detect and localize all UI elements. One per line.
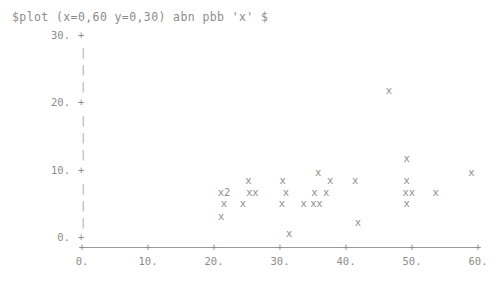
data-point: x <box>311 187 317 198</box>
y-axis-dash: | <box>80 115 86 126</box>
x-axis-tick-mark: + <box>145 242 151 253</box>
data-point: x <box>468 167 474 178</box>
x-axis-tick-label: 40. <box>337 255 356 267</box>
data-point: x <box>355 217 361 228</box>
y-axis-tick-mark: + <box>78 97 84 108</box>
x-axis-tick-mark: + <box>277 242 283 253</box>
data-point: x <box>352 175 358 186</box>
scatter-plot-canvas: 30.+20.+10.+0.+||||||||| +0.+10.+20.+30.… <box>0 0 500 284</box>
y-axis-dash: | <box>80 81 86 92</box>
x-axis-tick-label: 0. <box>76 255 89 267</box>
data-point: x <box>327 175 333 186</box>
x-axis-tick-label: 10. <box>139 255 158 267</box>
x-axis-tick-mark: + <box>79 242 85 253</box>
data-point: x <box>323 187 329 198</box>
y-axis-tick-label: 0. <box>57 231 70 243</box>
y-axis-dash: | <box>80 64 86 75</box>
data-point: x <box>386 85 392 96</box>
data-point: x <box>301 198 307 209</box>
y-axis-tick-mark: + <box>78 30 84 41</box>
y-axis-dash: | <box>80 47 86 58</box>
data-point-overplot: xx <box>403 187 415 198</box>
x-axis-tick-label: 60. <box>469 255 488 267</box>
y-axis-dash: | <box>80 183 86 194</box>
y-axis-dash: | <box>80 149 86 160</box>
data-point-overplot: xx <box>246 187 258 198</box>
data-point: x <box>404 198 410 209</box>
data-point-overplot: x2 <box>218 187 230 198</box>
x-axis-tick-label: 30. <box>271 255 290 267</box>
data-point: x <box>218 211 224 222</box>
x-axis-tick-mark: + <box>475 242 481 253</box>
data-point: x <box>279 198 285 209</box>
y-axis-tick-mark: + <box>78 165 84 176</box>
x-axis-tick-mark: + <box>343 242 349 253</box>
data-point: x <box>279 175 285 186</box>
y-axis-dash: | <box>80 200 86 211</box>
x-axis-tick-mark: + <box>211 242 217 253</box>
y-axis-tick-label: 10. <box>51 164 70 176</box>
plot-output-screen: $plot (x=0,60 y=0,30) abn pbb 'x' $ 30.+… <box>0 0 500 284</box>
data-point: x <box>404 153 410 164</box>
data-point: x <box>221 198 227 209</box>
data-point: x <box>404 175 410 186</box>
x-axis-tick-label: 20. <box>205 255 224 267</box>
data-point: x <box>245 175 251 186</box>
data-point: x <box>315 167 321 178</box>
y-axis-dash: | <box>80 217 86 228</box>
data-point: x <box>240 198 246 209</box>
x-axis-tick-label: 50. <box>403 255 422 267</box>
x-axis-tick-mark: + <box>409 242 415 253</box>
data-point: x <box>283 187 289 198</box>
data-point: x <box>286 228 292 239</box>
y-axis-tick-label: 30. <box>51 29 70 41</box>
data-point: x <box>433 187 439 198</box>
y-axis-dash: | <box>80 132 86 143</box>
y-axis-tick-label: 20. <box>51 96 70 108</box>
data-point-overplot: xx <box>310 198 322 209</box>
